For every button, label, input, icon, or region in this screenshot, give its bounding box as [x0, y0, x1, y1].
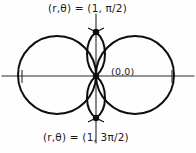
point-origin-marker	[93, 73, 99, 79]
left-circle-curve	[18, 36, 96, 114]
label-point-top: (r,θ) = (1, π/2)	[48, 2, 127, 14]
right-circle-curve	[96, 36, 174, 114]
polar-curve-figure: (r,θ) = (1, π/2) (0,0) (r,θ) = (1, 3π/2)	[0, 0, 196, 153]
label-point-bottom: (r,θ) = (1, 3π/2)	[43, 131, 129, 143]
label-origin: (0,0)	[111, 66, 135, 77]
